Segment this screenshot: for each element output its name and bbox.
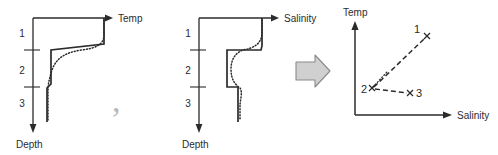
ts-x-axis-label: Salinity <box>457 110 489 121</box>
salinity-x-axis-arrowhead <box>271 15 279 22</box>
panel-ts-diagram: 1 2 3 Temp Salinity <box>343 7 489 121</box>
salinity-layer-label-2: 2 <box>185 65 191 76</box>
temp-step-profile <box>47 18 104 122</box>
comma-icon: , <box>112 82 121 119</box>
salinity-smooth-profile <box>231 20 262 120</box>
transition-arrow <box>296 55 330 87</box>
temp-layer-label-3: 3 <box>19 98 25 109</box>
ts-y-axis-label: Temp <box>343 7 368 18</box>
ts-x-axis-arrowhead <box>443 111 452 118</box>
panel-salinity-profile: 1 2 3 Salinity Depth <box>182 13 316 150</box>
figure-root: 1 2 3 Temp Depth , 1 2 3 Salinit <box>0 0 498 155</box>
transition-arrow-icon <box>296 55 330 87</box>
ts-point-label-2: 2 <box>361 83 367 95</box>
ts-connector-2-to-1 <box>374 39 424 87</box>
temp-y-axis-arrowhead <box>30 124 37 133</box>
ts-connector-2-to-3 <box>375 89 407 93</box>
temp-layer-label-1: 1 <box>19 28 25 39</box>
salinity-layer-label-3: 3 <box>185 98 191 109</box>
salinity-step-profile <box>227 18 262 122</box>
ts-point-marker-1 <box>424 33 430 39</box>
salinity-layer-label-1: 1 <box>185 28 191 39</box>
ts-point-label-1: 1 <box>414 23 420 35</box>
panel-temp-profile: 1 2 3 Temp Depth , <box>16 13 143 150</box>
temp-x-axis-arrowhead <box>105 15 113 22</box>
ts-point-label-3: 3 <box>416 87 422 99</box>
temp-y-axis-label: Depth <box>16 139 43 150</box>
diagram-canvas: 1 2 3 Temp Depth , 1 2 3 Salinit <box>0 0 498 155</box>
ts-point-marker-2 <box>369 85 375 91</box>
ts-mixing-line <box>373 72 387 87</box>
salinity-x-axis-label: Salinity <box>284 13 316 24</box>
temp-layer-label-2: 2 <box>19 65 25 76</box>
salinity-y-axis-label: Depth <box>182 139 209 150</box>
salinity-y-axis-arrowhead <box>196 124 203 133</box>
ts-y-axis-arrowhead <box>351 21 358 30</box>
ts-point-marker-3 <box>407 90 413 96</box>
temp-x-axis-label: Temp <box>118 13 143 24</box>
temp-smooth-profile <box>48 20 104 120</box>
